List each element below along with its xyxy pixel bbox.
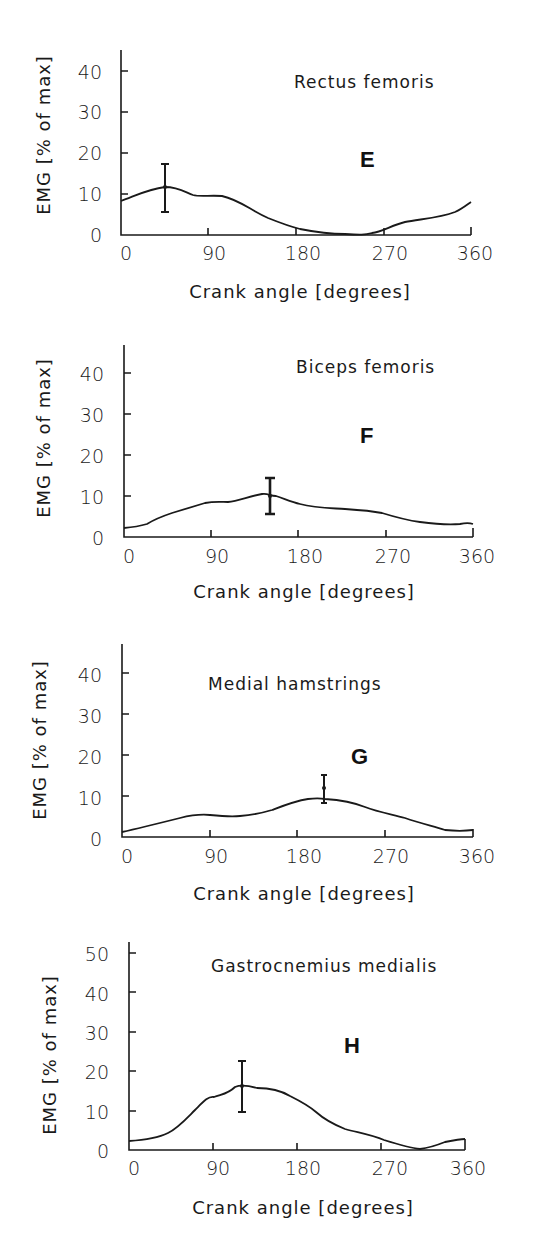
y-axis-label: EMG [% of max]: [29, 660, 50, 820]
y-tick-label: 40: [78, 61, 102, 83]
y-tick-label: 10: [80, 486, 104, 508]
y-tick-label: 40: [85, 983, 109, 1005]
panel-letter: G: [351, 744, 368, 769]
panel-g: EMG [% of max] 0 10 20 30 40 0 90 180 27…: [29, 644, 495, 904]
x-tick-label: 180: [285, 242, 321, 264]
y-tick-label: 30: [80, 404, 104, 426]
x-tick-label: 90: [205, 545, 229, 567]
y-axis-label: EMG [% of max]: [39, 975, 60, 1135]
muscle-label: Biceps femoris: [296, 357, 435, 377]
emg-curve: [124, 494, 473, 528]
x-tick-label: 0: [121, 845, 133, 867]
y-tick-labels: 0 10 20 30 40: [78, 664, 102, 850]
y-tick-label: 0: [97, 1140, 109, 1162]
x-tick-label: 90: [204, 845, 228, 867]
y-tick-labels: 0 10 20 30 40 50: [85, 943, 109, 1162]
y-tick-labels: 0 10 20 30 40: [78, 61, 102, 246]
x-tick-label: 0: [123, 545, 135, 567]
y-tick-label: 50: [85, 943, 109, 965]
y-axis-label: EMG [% of max]: [33, 55, 54, 215]
y-tick-label: 30: [78, 705, 102, 727]
emg-curve: [121, 187, 471, 235]
y-axis-label: EMG [% of max]: [33, 358, 54, 518]
y-tick-label: 20: [85, 1061, 109, 1083]
x-tick-labels: 0 90 180 270 360: [120, 242, 493, 264]
x-axis-label: Crank angle [degrees]: [192, 1197, 414, 1218]
y-tick-label: 30: [85, 1022, 109, 1044]
y-tick-label: 40: [80, 363, 104, 385]
panel-e: EMG [% of max] 0 10 20 30 40 0 90 180 27…: [33, 50, 493, 302]
y-tick-label: 10: [78, 183, 102, 205]
x-tick-labels: 0 90 180 270 360: [123, 545, 495, 567]
x-axis-label: Crank angle [degrees]: [189, 281, 411, 302]
x-tick-label: 360: [459, 845, 495, 867]
x-tick-label: 360: [459, 545, 495, 567]
x-tick-label: 360: [457, 242, 493, 264]
muscle-label: Medial hamstrings: [208, 674, 382, 694]
muscle-label: Gastrocnemius medialis: [211, 956, 437, 976]
y-tick-label: 20: [80, 445, 104, 467]
y-tick-label: 20: [78, 746, 102, 768]
x-tick-label: 270: [375, 545, 411, 567]
x-tick-label: 0: [120, 242, 132, 264]
x-axis-label: Crank angle [degrees]: [193, 581, 415, 602]
emg-curve: [129, 1085, 465, 1149]
panel-h: EMG [% of max] 0 10 20 30 40 50 0 90 180…: [39, 942, 486, 1218]
panel-letter: F: [360, 423, 373, 448]
y-tick-labels: 0 10 20 30 40: [80, 363, 104, 549]
axes: [122, 644, 473, 837]
panel-letter: H: [344, 1033, 360, 1058]
muscle-label: Rectus femoris: [294, 72, 435, 92]
y-tick-label: 0: [92, 527, 104, 549]
emg-figure: EMG [% of max] 0 10 20 30 40 0 90 180 27…: [0, 0, 557, 1259]
panel-f: EMG [% of max] 0 10 20 30 40 0 90 180 27…: [33, 345, 495, 602]
x-tick-label: 90: [202, 242, 226, 264]
x-tick-labels: 0 90 180 270 360: [121, 845, 495, 867]
y-tick-label: 40: [78, 664, 102, 686]
x-tick-label: 180: [287, 545, 323, 567]
x-tick-label: 270: [372, 242, 408, 264]
x-tick-labels: 0 90 180 270 360: [128, 1157, 486, 1179]
x-tick-label: 270: [373, 845, 409, 867]
x-tick-label: 90: [206, 1157, 230, 1179]
x-tick-label: 180: [285, 1157, 321, 1179]
y-tick-label: 10: [85, 1101, 109, 1123]
y-tick-label: 20: [78, 142, 102, 164]
x-axis-label: Crank angle [degrees]: [193, 883, 415, 904]
x-tick-label: 360: [450, 1157, 486, 1179]
y-tick-label: 0: [90, 224, 102, 246]
panel-letter: E: [360, 147, 375, 172]
y-tick-label: 0: [90, 828, 102, 850]
y-tick-label: 10: [78, 787, 102, 809]
emg-curve: [122, 798, 473, 832]
x-tick-label: 180: [286, 845, 322, 867]
x-tick-label: 0: [128, 1157, 140, 1179]
y-tick-label: 30: [78, 101, 102, 123]
x-tick-label: 270: [372, 1157, 408, 1179]
